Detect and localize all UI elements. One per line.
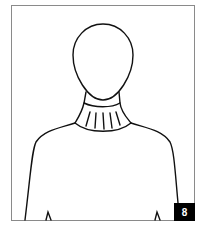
left-arm-seam	[46, 212, 51, 220]
right-arm-seam	[155, 212, 160, 220]
turtleneck-illustration-icon	[0, 0, 206, 235]
page-number-badge: 8	[174, 203, 195, 221]
head-outline	[73, 24, 133, 100]
left-shoulder	[25, 123, 75, 220]
collar-ribs	[86, 112, 120, 129]
right-shoulder	[131, 123, 178, 203]
